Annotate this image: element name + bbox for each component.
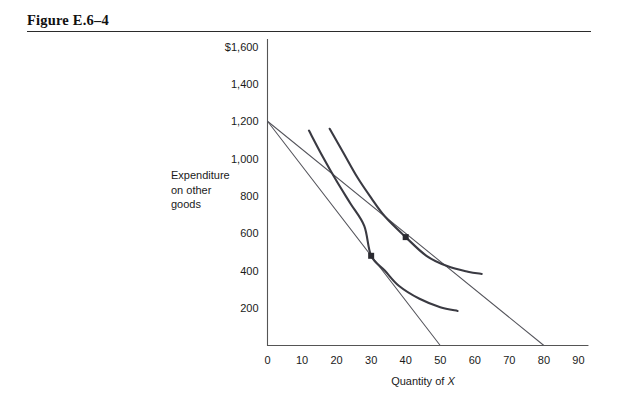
y-axis-tick-label: 200 [240,302,258,314]
indifference-curve-upper [330,129,482,274]
x-axis-tick-label: 70 [503,354,515,366]
y-axis-tick-label: 1,000 [231,153,259,165]
chart-axes [268,39,589,345]
tangency-point-upper [403,234,409,240]
y-axis-tick-label: $1,600 [225,41,259,53]
x-axis-tick-label: 20 [330,354,342,366]
tangency-point-lower [368,253,374,259]
y-axis-tick-label: 400 [240,265,258,277]
x-axis-tick-label: 50 [434,354,446,366]
y-axis-tick-label: 1,200 [231,115,259,127]
x-axis-tick-label: 0 [264,354,270,366]
x-axis-tick-label: 10 [296,354,308,366]
x-axis-tick-label: 80 [538,354,550,366]
budget-line-flat [268,121,544,345]
y-axis-tick-label: 800 [240,190,258,202]
x-axis-title: Quantity of X [391,375,455,387]
x-axis-tick-label: 30 [365,354,377,366]
y-axis-title-line: Expenditure [171,169,230,181]
figure-container: Figure E.6–4 2004006008001,0001,2001,400… [0,0,618,402]
y-axis-title-line: on other [171,184,212,196]
y-axis-title-line: goods [171,198,201,210]
x-axis-tick-label: 90 [572,354,584,366]
x-axis-tick-label: 60 [469,354,481,366]
indifference-curve-lower [309,131,458,311]
x-axis-tick-label: 40 [400,354,412,366]
y-axis-tick-label: 1,400 [231,78,259,90]
chart-plot-area: 2004006008001,0001,2001,400$1,6000102030… [0,0,618,402]
y-axis-tick-label: 600 [240,227,258,239]
budget-line-steep [268,121,441,345]
